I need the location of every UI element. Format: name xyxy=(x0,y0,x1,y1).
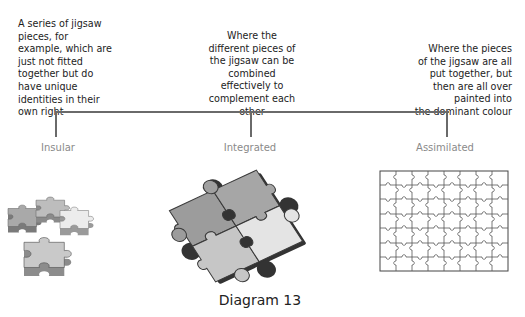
text-line: complement each xyxy=(196,93,308,106)
text-line: effectively to xyxy=(196,80,308,93)
connector-integrated-line xyxy=(250,111,252,137)
insular-puzzle-icon xyxy=(2,184,107,289)
connector-horizontal-line xyxy=(55,111,449,113)
text-line: the jigsaw can be xyxy=(196,55,308,68)
text-line: Where the pieces xyxy=(384,43,512,56)
assimilated-description: Where the pieces of the jigsaw are all p… xyxy=(384,43,512,119)
assimilated-puzzle-grid-icon xyxy=(379,170,510,273)
text-line: pieces, for xyxy=(18,31,128,44)
text-line: have unique xyxy=(18,81,128,94)
text-line: A series of jigsaw xyxy=(18,18,128,31)
text-line: put together, but xyxy=(384,68,512,81)
integrated-puzzle-icon xyxy=(160,160,312,292)
label-integrated: Integrated xyxy=(200,142,300,153)
text-line: example, which are xyxy=(18,43,128,56)
text-line: Where the xyxy=(196,30,308,43)
label-assimilated: Assimilated xyxy=(395,142,495,153)
label-insular: Insular xyxy=(8,142,108,153)
diagram-caption: Diagram 13 xyxy=(205,292,315,308)
connector-assimilated-line xyxy=(446,111,448,137)
text-line: identities in their xyxy=(18,94,128,107)
text-line: different pieces of xyxy=(196,43,308,56)
text-line: just not fitted xyxy=(18,56,128,69)
text-line: of the jigsaw are all xyxy=(384,56,512,69)
text-line: then are all over xyxy=(384,81,512,94)
integrated-description: Where the different pieces of the jigsaw… xyxy=(196,30,308,118)
text-line: together but do xyxy=(18,68,128,81)
text-line: painted into xyxy=(384,93,512,106)
insular-description: A series of jigsaw pieces, for example, … xyxy=(18,18,128,119)
connector-insular-line xyxy=(55,111,57,137)
text-line: combined xyxy=(196,68,308,81)
